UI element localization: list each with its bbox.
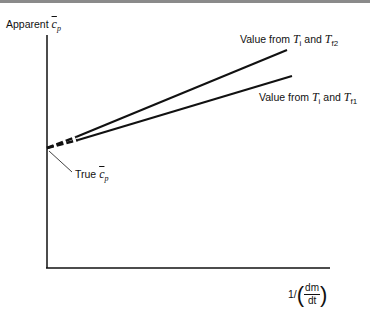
lower-label-text: Value from <box>259 91 309 103</box>
upper-line <box>76 50 287 137</box>
x-label-numerator: dm <box>304 283 320 295</box>
lower-label-t2-sub: f1 <box>350 97 357 106</box>
x-axis-label: 1/(dmdt) <box>288 283 327 306</box>
upper-label-and: and <box>304 33 322 45</box>
intercept-subscript: p <box>104 174 108 183</box>
x-label-prefix: 1/ <box>288 288 297 300</box>
upper-label-t2-sub: f2 <box>331 39 338 48</box>
lower-line <box>78 76 292 140</box>
y-label-subscript: p <box>57 24 61 33</box>
upper-line-label: Value from Ti and Tf2 <box>240 33 338 48</box>
lower-label-and: and <box>323 91 341 103</box>
y-label-text: Apparent <box>6 18 49 30</box>
intercept-label: True cp <box>75 168 108 183</box>
lower-line-label: Value from Ti and Tf1 <box>259 91 357 106</box>
lower-label-t1-sub: i <box>319 97 321 106</box>
x-label-fraction: dmdt <box>304 283 320 306</box>
x-label-denominator: dt <box>308 295 316 306</box>
right-paren: ) <box>320 282 327 307</box>
upper-label-t1-sub: i <box>300 39 302 48</box>
upper-label-t1: T <box>293 32 300 46</box>
left-paren: ( <box>297 282 304 307</box>
intercept-text: True <box>75 168 96 180</box>
lower-label-t1: T <box>312 90 319 104</box>
intercept-leader <box>49 151 72 172</box>
y-axis-label: Apparent cp <box>6 18 61 33</box>
upper-label-text: Value from <box>240 33 290 45</box>
